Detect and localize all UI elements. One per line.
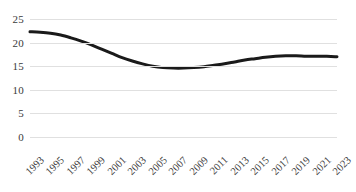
y-tick-label-10: 10 — [13, 85, 24, 96]
y-tick-label-5: 5 — [18, 108, 24, 119]
plot-area — [30, 19, 337, 137]
x-axis: 1993199519971999200120032005200720092011… — [30, 137, 337, 192]
x-tick-label-text: 1993 — [24, 155, 46, 177]
gridline-y-25 — [30, 19, 337, 20]
gridline-y-20 — [30, 43, 337, 44]
y-tick-label-0: 0 — [18, 132, 24, 143]
y-tick-label-20: 20 — [13, 38, 24, 49]
y-axis: 0510152025 — [0, 0, 30, 156]
gridline-y-5 — [30, 113, 337, 114]
y-tick-label-15: 15 — [13, 61, 24, 72]
series-1-line — [30, 32, 337, 68]
x-tick-label-2023: 2023 — [343, 143, 356, 165]
gridline-y-10 — [30, 90, 337, 91]
series-line-svg — [30, 19, 337, 137]
gridline-y-15 — [30, 66, 337, 67]
y-tick-label-25: 25 — [13, 14, 24, 25]
